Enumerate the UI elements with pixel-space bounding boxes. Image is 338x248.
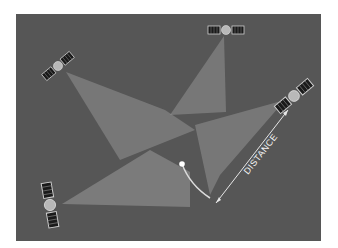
beam-top-right [170,36,226,115]
beam-top-left [66,72,195,160]
receiver-dot [179,161,185,167]
trilateration-diagram: DISTANCE [0,0,338,248]
satellite-right-icon [274,78,314,114]
satellite-top-right-icon [208,26,244,35]
satellite-bottom-left-icon [41,182,60,228]
beam-bottom-left [62,150,190,207]
